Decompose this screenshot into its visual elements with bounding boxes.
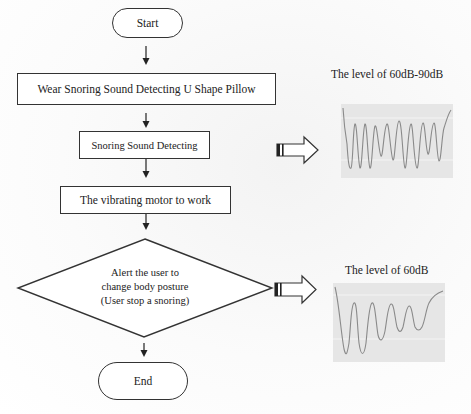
snoring-detecting-step: Snoring Sound Detecting — [79, 131, 210, 159]
diagram-canvas: Start Wear Snoring Sound Detecting U Sha… — [0, 0, 471, 414]
vibrating-motor-step: The vibrating motor to work — [60, 186, 231, 214]
waveform-60db — [333, 283, 445, 362]
vibrating-motor-label: The vibrating motor to work — [80, 194, 211, 206]
block-arrow-bottom — [275, 276, 316, 303]
decision-line-1: Alert the user to — [70, 266, 220, 280]
snoring-detecting-label: Snoring Sound Detecting — [91, 140, 197, 151]
decision-line-2: change body posture — [70, 280, 220, 294]
decision-text: Alert the user to change body posture (U… — [70, 266, 220, 308]
waveform-chart-60-90db — [341, 104, 453, 178]
start-label: Start — [137, 17, 159, 29]
wear-pillow-label: Wear Snoring Sound Detecting U Shape Pil… — [37, 83, 255, 95]
end-label: End — [134, 375, 153, 387]
end-terminal: End — [98, 362, 188, 400]
panel-bottom-title: The level of 60dB — [345, 264, 428, 276]
decision-line-3: (User stop a snoring) — [70, 294, 220, 308]
start-terminal: Start — [112, 8, 183, 38]
waveform-60-90db — [341, 104, 453, 178]
block-arrow-top — [277, 137, 318, 163]
waveform-chart-60db — [333, 283, 445, 362]
panel-top-title: The level of 60dB-90dB — [331, 68, 443, 80]
wear-pillow-step: Wear Snoring Sound Detecting U Shape Pil… — [17, 73, 276, 105]
